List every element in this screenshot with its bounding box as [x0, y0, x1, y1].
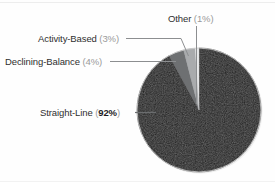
pie-label-straight-line-value: (92%): [93, 107, 120, 118]
pie-label-straight-line: Straight-Line (92%): [40, 107, 120, 118]
pie-label-declining-balance: Declining-Balance (4%): [5, 56, 102, 67]
pie-label-other-name: Other: [168, 13, 191, 24]
pie-chart-figure: Other (1%) Activity-Based (3%) Declining…: [0, 0, 275, 182]
pie-label-declining-balance-name: Declining-Balance: [5, 56, 80, 67]
pie-label-activity-based-name: Activity-Based: [38, 33, 97, 44]
pie-label-declining-balance-value: (4%): [80, 56, 102, 67]
pie-label-other: Other (1%): [168, 13, 214, 24]
pie-chart-graphic: [0, 0, 275, 182]
pie-label-activity-based: Activity-Based (3%): [38, 33, 119, 44]
pie-label-straight-line-name: Straight-Line: [40, 107, 93, 118]
pie-label-other-value: (1%): [191, 13, 213, 24]
pie-label-activity-based-value: (3%): [97, 33, 119, 44]
